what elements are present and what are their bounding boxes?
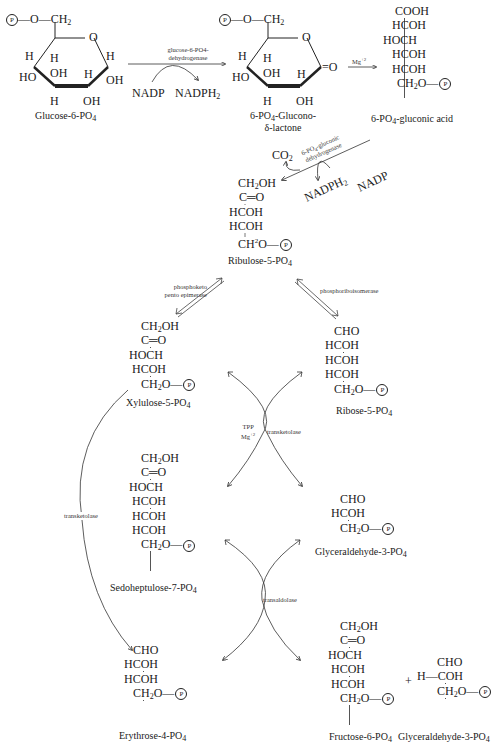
nadp-cofactor: NADP — [132, 86, 165, 100]
xylulose-5-po4-label: Xylulose-5-PO4 — [126, 397, 191, 409]
epimerase-enzyme-label: phosphoketopento epimerase — [145, 283, 207, 299]
ring-oh: OH — [263, 66, 280, 80]
ribose-structure: CHO HCOH HCOH HCOH CH2O—P — [334, 324, 388, 396]
phosphate-circle-icon: P — [439, 78, 451, 90]
ring-ho: HO — [19, 70, 36, 84]
erythrose-4-po4-label: Erythrose-4-PO4 — [119, 730, 186, 742]
mg-cofactor-label: Mg+2 — [352, 56, 366, 66]
transketolase-enzyme-label: transketolase — [267, 428, 301, 436]
ring-oxygen: O — [302, 30, 311, 44]
ring-h: H — [84, 67, 93, 81]
ring-oxygen: O — [89, 30, 98, 44]
plus-sign: + — [405, 674, 412, 688]
transketolase-left-label: transketolase — [64, 512, 98, 520]
phosphate-circle-icon: P — [382, 693, 394, 705]
gluconic-acid-structure: COOH HCOH HOCH HCOH HCOH CH2O—P — [383, 4, 451, 90]
ring-ho: HO — [232, 70, 249, 84]
phosphate-circle-icon: P — [376, 384, 388, 396]
phosphate-circle-icon: P — [183, 379, 195, 391]
glyceraldehyde-a-structure: CHO HCOH CH2O—P — [340, 492, 394, 535]
glucose-6-po4-label: Glucose-6-PO4 — [35, 110, 96, 122]
sedoheptulose-7-po4-label: Sedoheptulose-7-PO4 — [110, 582, 197, 594]
ring-h: H — [238, 49, 247, 63]
erythrose-structure: CHO HCOH HCOH CH2O—P — [133, 643, 187, 701]
ring-h: H — [263, 51, 272, 65]
phosphate-circle-icon: P — [280, 239, 292, 251]
ring-h: H — [25, 49, 34, 63]
fructose-structure: CH2OH C═O HOCH HCOH HCOH CH2O—P — [340, 619, 394, 705]
lactone-phosphate-group: P—O—CH2 — [218, 12, 284, 26]
ring-oh: OH — [83, 94, 100, 108]
ring-h: H — [106, 49, 115, 63]
fructose-6-po4-label: Fructose-6-PO4 — [329, 731, 392, 743]
ring-oh: OH — [106, 73, 123, 87]
g6pdh-enzyme-label: glucose-6-PO4-dehydrogenase — [152, 46, 224, 62]
nadph2-cofactor: NADPH2 — [175, 86, 220, 100]
gluconolactone-label: 6-PO4-Glucono-δ-lactone — [243, 110, 323, 134]
phosphate-circle-icon: P — [175, 688, 187, 700]
ring-h: H — [50, 51, 59, 65]
ring-oh: OH — [50, 66, 67, 80]
phosphate-circle-icon: P — [219, 14, 231, 26]
glyceraldehyde-3-po4-b-label: Glyceraldehyde-3-PO4 — [398, 731, 490, 743]
ribose-5-po4-label: Ribose-5-PO4 — [336, 405, 392, 417]
gluconic-acid-label: 6-PO4-gluconic acid — [371, 113, 453, 125]
glucose-phosphate-group: P—O—CH2 — [5, 12, 71, 26]
co2-product: CO2 — [272, 148, 293, 162]
tpp-cofactor-label: TPPMg+2 — [241, 423, 255, 441]
phosphate-circle-icon: P — [479, 686, 491, 698]
xylulose-structure: CH2OH C═O HOCH HCOH CH2O—P — [141, 319, 195, 391]
ribulose-structure: CH2OH C═O HCOH HCOH CH2O—P — [238, 176, 292, 251]
phosphate-circle-icon: P — [6, 14, 18, 26]
phosphate-circle-icon: P — [382, 523, 394, 535]
carbonyl-oxygen: =O — [322, 60, 337, 74]
ring-oh: OH — [296, 94, 313, 108]
sedoheptulose-structure: CH2OH C═O HOCH HCOH HCOH HCOH CH2O—P — [141, 451, 195, 552]
glyceraldehyde-b-structure: CHO H—COH CH2O—P — [437, 655, 491, 698]
ribulose-5-po4-label: Ribulose-5-PO4 — [228, 255, 292, 267]
transaldolase-enzyme-label: transaldolase — [263, 596, 297, 604]
ring-h: H — [50, 94, 59, 108]
glyceraldehyde-3-po4-label: Glyceraldehyde-3-PO4 — [315, 546, 407, 558]
ring-h: H — [297, 67, 306, 81]
isomerase-enzyme-label: phosphoriboisomerase — [320, 287, 379, 295]
phosphate-circle-icon: P — [183, 540, 195, 552]
ring-h: H — [263, 94, 272, 108]
